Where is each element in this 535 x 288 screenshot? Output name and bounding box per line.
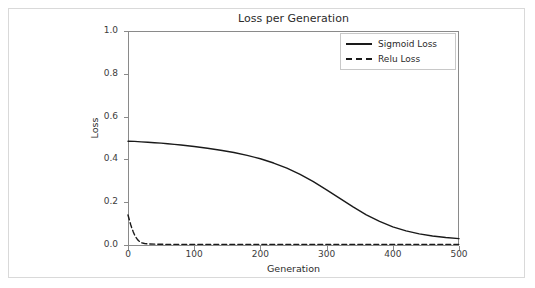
legend-item-relu-loss[interactable]: Relu Loss xyxy=(346,52,452,66)
legend-label-relu-loss: Relu Loss xyxy=(378,52,420,66)
chart-plot-area: Loss per Generation 0.00.20.40.60.81.0 0… xyxy=(0,0,535,288)
legend-label-sigmoid-loss: Sigmoid Loss xyxy=(378,37,437,51)
series-line-relu-loss xyxy=(128,215,459,244)
series-line-sigmoid-loss xyxy=(128,141,459,238)
legend-line-icon-dashed xyxy=(346,58,372,60)
legend-line-icon-solid xyxy=(346,43,372,45)
legend-item-sigmoid-loss[interactable]: Sigmoid Loss xyxy=(346,37,452,51)
chart-legend[interactable]: Sigmoid Loss Relu Loss xyxy=(340,33,456,70)
